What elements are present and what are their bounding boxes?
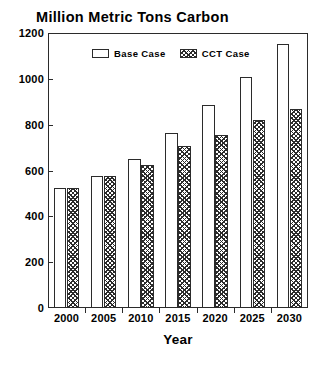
x-axis-tick-mark [122, 308, 123, 313]
x-axis-title: Year [48, 332, 308, 347]
bar-cct-case [67, 188, 80, 308]
bar-cct-case [104, 176, 117, 308]
y-axis-tick-label: 600 [2, 165, 44, 177]
y-axis-tick-label: 400 [2, 210, 44, 222]
legend-entry-base-case: Base Case [92, 48, 166, 59]
bar-cct-case [253, 120, 266, 308]
y-axis-tick-mark [48, 216, 53, 217]
y-axis-tick-label: 1200 [2, 27, 44, 39]
bar-cct-case [141, 165, 154, 308]
x-axis-tick-mark [234, 308, 235, 313]
chart-legend: Base Case CCT Case [92, 48, 250, 59]
y-axis-tick-label: 200 [2, 256, 44, 268]
y-axis-tick-mark [48, 171, 53, 172]
y-axis-tick-label: 1000 [2, 73, 44, 85]
y-axis-tick-label: 800 [2, 119, 44, 131]
bar-base-case [277, 44, 290, 308]
y-axis-tick-mark [48, 262, 53, 263]
x-axis-tick-mark [85, 308, 86, 313]
bar-base-case [202, 105, 215, 308]
bar-base-case [240, 77, 253, 308]
legend-swatch-base-case-icon [92, 49, 109, 58]
legend-label-cct-case: CCT Case [202, 48, 250, 59]
x-axis-tick-mark [271, 308, 272, 313]
y-axis-tick-mark [48, 125, 53, 126]
bar-base-case [91, 176, 104, 308]
y-axis-tick-mark [48, 79, 53, 80]
chart-figure: Million Metric Tons Carbon 0200400600800… [0, 0, 327, 373]
bar-cct-case [215, 135, 228, 308]
y-axis-tick-label: 0 [2, 302, 44, 314]
legend-label-base-case: Base Case [114, 48, 166, 59]
legend-entry-cct-case: CCT Case [180, 48, 250, 59]
x-axis-tick-mark [197, 308, 198, 313]
bar-base-case [54, 188, 67, 308]
bar-base-case [128, 159, 141, 308]
bar-cct-case [178, 146, 191, 308]
x-axis-tick-label: 2030 [265, 312, 313, 324]
legend-swatch-cct-case-icon [180, 49, 197, 58]
bar-base-case [165, 133, 178, 308]
bar-cct-case [290, 109, 303, 308]
chart-title: Million Metric Tons Carbon [36, 9, 229, 25]
x-axis-tick-mark [159, 308, 160, 313]
